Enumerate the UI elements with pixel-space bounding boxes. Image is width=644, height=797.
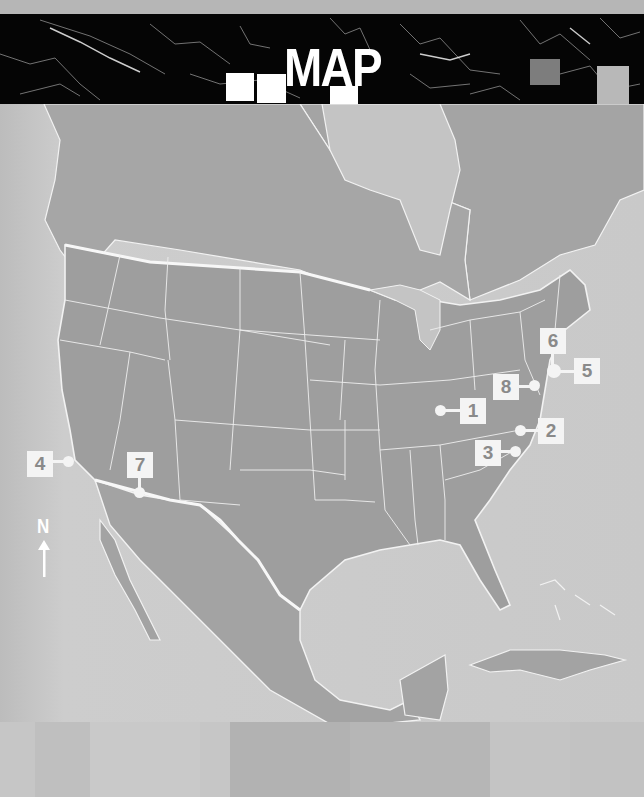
marker-2-label[interactable]: 2: [538, 418, 564, 444]
accent-box-gray: [530, 59, 560, 85]
compass-north-label: N: [37, 515, 49, 538]
marker-8-label[interactable]: 8: [493, 374, 519, 400]
marker-3-dot[interactable]: [510, 446, 521, 457]
accent-box-white-3: [330, 86, 358, 104]
page: MAP: [0, 0, 644, 797]
header-banner: MAP: [0, 14, 644, 104]
marker-6-leader: [551, 353, 554, 365]
marker-8-dot[interactable]: [529, 380, 540, 391]
north-america-map: [0, 104, 644, 724]
accent-box-light-gray: [597, 66, 629, 104]
marker-7-dot[interactable]: [134, 487, 145, 498]
marker-7-label[interactable]: 7: [127, 452, 153, 478]
marker-1-label[interactable]: 1: [460, 398, 486, 424]
top-strip: [0, 0, 644, 14]
marker-4-dot[interactable]: [63, 456, 74, 467]
accent-box-white-1: [226, 73, 254, 101]
accent-box-white-2: [257, 74, 286, 103]
north-arrow-icon: [38, 540, 50, 580]
bottom-band: [0, 722, 644, 797]
marker-6-label[interactable]: 6: [540, 328, 566, 354]
marker-5-label[interactable]: 5: [574, 358, 600, 384]
marker-3-label[interactable]: 3: [475, 440, 501, 466]
marker-4-label[interactable]: 4: [27, 451, 53, 477]
marker-1-leader: [442, 409, 462, 412]
